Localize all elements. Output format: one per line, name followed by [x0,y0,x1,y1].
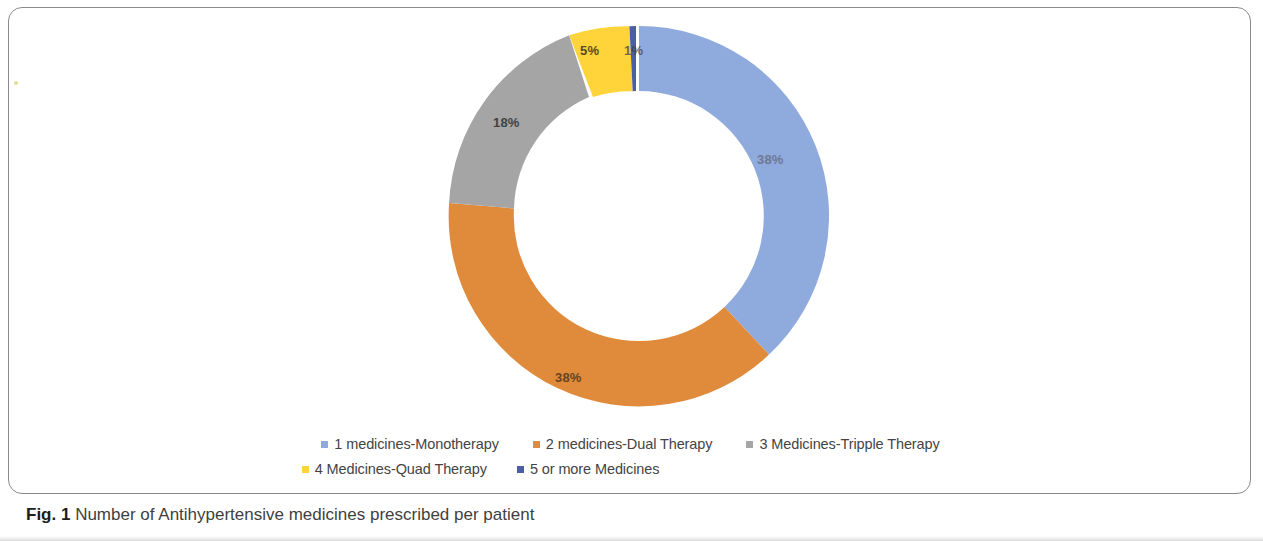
donut-chart-svg [433,11,829,411]
slice-1-medicines-monotherapy[interactable] [639,26,829,355]
legend-row-1: 1 medicines-Monotherapy 2 medicines-Dual… [9,436,1251,452]
legend-item-quad-therapy[interactable]: 4 Medicines-Quad Therapy [302,461,487,477]
slice-label-quad-therapy: 5% [580,43,599,58]
legend-item-tripple-therapy[interactable]: 3 Medicines-Tripple Therapy [746,436,939,452]
slice-label-monotherapy: 38% [757,152,784,167]
legend-label-five-or-more: 5 or more Medicines [530,461,659,477]
slice-2-medicines-dual-therapy[interactable] [449,203,769,406]
slice-label-tripple-therapy: 18% [493,115,520,130]
legend-label-quad-therapy: 4 Medicines-Quad Therapy [315,461,487,477]
scan-artifact-line [0,536,1263,541]
donut-slices [449,26,829,406]
legend-swatch-icon-five-or-more [517,466,524,473]
slice-label-dual-therapy: 38% [555,370,582,385]
legend-item-monotherapy[interactable]: 1 medicines-Monotherapy [321,436,499,452]
legend-swatch-icon-quad-therapy [302,466,309,473]
legend-label-tripple-therapy: 3 Medicines-Tripple Therapy [759,436,939,452]
figure-caption-body: Number of Antihypertensive medicines pre… [75,505,534,524]
slice-label-five-or-more: 1% [624,43,643,58]
legend-swatch-icon-tripple-therapy [746,441,753,448]
donut-chart: 38% 38% 18% 5% 1% [9,8,1251,428]
legend-swatch-icon-monotherapy [321,441,328,448]
legend-label-dual-therapy: 2 medicines-Dual Therapy [546,436,713,452]
chart-legend: 1 medicines-Monotherapy 2 medicines-Dual… [9,436,1251,486]
figure-frame: 38% 38% 18% 5% 1% 1 medicines-Monotherap… [8,7,1251,494]
legend-row-2: 4 Medicines-Quad Therapy 5 or more Medic… [9,461,1251,477]
scan-speck [14,81,18,85]
legend-swatch-icon-dual-therapy [533,441,540,448]
legend-item-five-or-more[interactable]: 5 or more Medicines [517,461,659,477]
legend-item-dual-therapy[interactable]: 2 medicines-Dual Therapy [533,436,713,452]
figure-caption: Fig. 1 Number of Antihypertensive medici… [26,505,534,525]
figure-caption-label: Fig. 1 [26,505,70,524]
legend-label-monotherapy: 1 medicines-Monotherapy [334,436,499,452]
